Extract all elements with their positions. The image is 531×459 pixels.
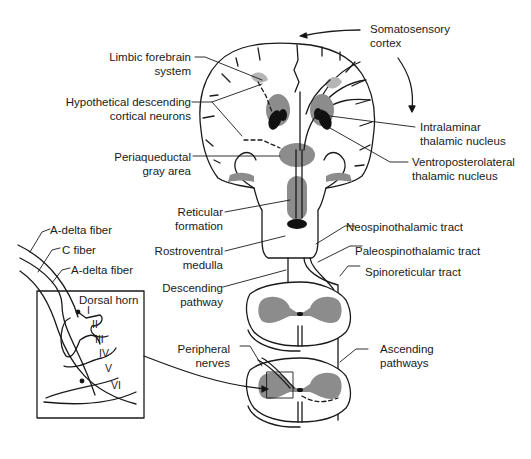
label-line: Hypothetical descending	[66, 95, 191, 109]
lamina-V: V	[105, 361, 112, 375]
label-line: thalamic nucleus	[420, 134, 506, 148]
label-spinoreticular: Spinoreticular tract	[365, 265, 461, 279]
label-intralaminar: Intralaminar thalamic nucleus	[420, 120, 506, 148]
label-line: Periaqueductal	[114, 150, 191, 164]
label-line: nerves	[178, 356, 230, 370]
label-line: gray area	[114, 164, 191, 178]
spinal-cord-upper	[247, 282, 351, 351]
lamina-VI: VI	[111, 378, 121, 392]
label-ventroposterolateral: Ventroposterolateral thalamic nucleus	[412, 155, 515, 183]
label-line: system	[109, 64, 191, 78]
label-paleospinothalamic: Paleospinothalamic tract	[355, 244, 480, 258]
lamina-II: II	[92, 317, 98, 331]
label-somatosensory-cortex: Somatosensory cortex	[370, 22, 450, 50]
label-line: Ventroposterolateral	[412, 155, 515, 169]
lamina-IV: IV	[99, 346, 109, 360]
label-line: cortex	[370, 36, 450, 50]
label-line: pathways	[380, 356, 434, 370]
label-periaqueductal: Periaqueductal gray area	[114, 150, 191, 178]
label-line: Limbic forebrain	[109, 50, 191, 64]
label-line: Rostroventral	[155, 244, 223, 258]
lamina-III: III	[95, 332, 104, 346]
label-neospinothalamic: Neospinothalamic tract	[346, 220, 463, 234]
label-descending-pathway: Descending pathway	[162, 281, 223, 309]
label-limbic-forebrain: Limbic forebrain system	[109, 50, 191, 78]
label-line: medulla	[155, 258, 223, 272]
lamina-I: I	[87, 303, 90, 317]
label-line: Descending	[162, 281, 223, 295]
label-c-fiber: C fiber	[62, 243, 96, 257]
label-reticular-formation: Reticular formation	[175, 205, 223, 233]
label-line: cortical neurons	[66, 109, 191, 123]
label-line: pathway	[162, 295, 223, 309]
label-line: thalamic nucleus	[412, 169, 515, 183]
label-line: formation	[175, 219, 223, 233]
label-line: Reticular	[175, 205, 223, 219]
label-line: Intralaminar	[420, 120, 506, 134]
label-rostroventral-medulla: Rostroventral medulla	[155, 244, 223, 272]
label-hypothetical-descending: Hypothetical descending cortical neurons	[66, 95, 191, 123]
label-line: Somatosensory	[370, 22, 450, 36]
label-line: Peripheral	[178, 342, 230, 356]
label-a-delta-fiber-2: A-delta fiber	[71, 263, 133, 277]
label-a-delta-fiber-1: A-delta fiber	[50, 223, 112, 237]
label-peripheral-nerves: Peripheral nerves	[178, 342, 230, 370]
label-ascending-pathways: Ascending pathways	[380, 342, 434, 370]
label-line: Ascending	[380, 342, 434, 356]
